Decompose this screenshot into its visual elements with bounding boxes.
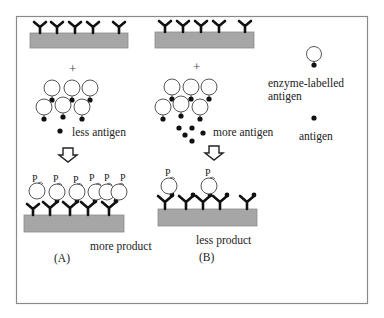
panel-a-label: (A)	[54, 252, 70, 265]
product-p: P	[32, 173, 38, 184]
substrate-a-bottom	[24, 215, 124, 232]
product-p: P	[89, 172, 95, 183]
legend-enzyme-labelled-line1: enzyme-labelled	[268, 77, 344, 90]
legend-antigen-label: antigen	[299, 130, 333, 143]
less-product-label: less product	[196, 234, 252, 247]
product-p: P	[73, 174, 79, 185]
antigen-dot	[57, 128, 62, 133]
plus-sign-a: +	[69, 61, 76, 76]
substrate-b-bottom	[158, 209, 257, 226]
panel-b-label: (B)	[199, 251, 215, 264]
more-product-label: more product	[90, 240, 152, 253]
substrate-b-top	[155, 32, 254, 48]
legend-antigen-icon	[311, 115, 316, 120]
product-p: P	[205, 167, 211, 178]
plus-sign-b: +	[193, 59, 200, 74]
elisa-diagram: + less antigen P P P P P	[0, 0, 384, 318]
more-antigen-label: more antigen	[213, 126, 274, 139]
product-p: P	[53, 173, 59, 184]
substrate-a-top	[30, 33, 128, 48]
less-antigen-label: less antigen	[72, 126, 126, 139]
legend-enzyme-labelled-line2: antigen	[268, 90, 302, 103]
product-p: P	[104, 172, 110, 183]
product-p: P	[120, 172, 126, 183]
product-p: P	[165, 167, 171, 178]
